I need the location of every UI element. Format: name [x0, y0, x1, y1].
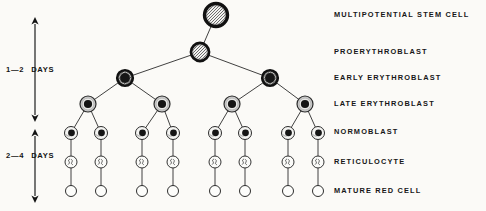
cell-node-reticulocyte: [136, 156, 148, 168]
cell-node-mature-red-cell: [96, 186, 107, 197]
cell-node-reticulocyte: [167, 156, 179, 168]
erythropoiesis-diagram: MULTIPOTENTIAL STEM CELLPROERYTHROBLASTE…: [0, 0, 486, 211]
cell-node-reticulocyte: [239, 156, 251, 168]
cell-node-mature-red-cell: [313, 186, 324, 197]
cell-node-reticulocyte: [282, 156, 294, 168]
stage-label-multipotential-stem-cell: MULTIPOTENTIAL STEM CELL: [334, 11, 469, 18]
cell-node-mature-red-cell: [210, 186, 221, 197]
cell-node-reticulocyte: [209, 156, 221, 168]
cell-node-mature-red-cell: [283, 186, 294, 197]
cell-node-early-erythroblast: [262, 70, 278, 86]
cell-node-normoblast: [209, 127, 222, 140]
cell-node-mature-red-cell: [66, 186, 77, 197]
duration-label-1: 1—2DAYS: [6, 66, 54, 74]
cell-node-late-erythroblast: [80, 96, 96, 112]
cell-node-late-erythroblast: [154, 96, 170, 112]
timeline-arrows: [31, 17, 38, 203]
cell-node-proerythroblast: [191, 43, 209, 61]
cell-node-normoblast: [95, 127, 108, 140]
cell-node-normoblast: [239, 127, 252, 140]
cell-node-late-erythroblast: [297, 96, 313, 112]
stage-label-early-erythroblast: EARLY ERYTHROBLAST: [334, 74, 441, 81]
stage-label-mature-red-cell: MATURE RED CELL: [334, 187, 421, 194]
cell-node-late-erythroblast: [224, 96, 240, 112]
stage-label-reticulocyte: RETICULOCYTE: [334, 158, 405, 165]
cell-node-reticulocyte: [95, 156, 107, 168]
timeline-arrowhead-up: [31, 129, 38, 137]
cell-node-early-erythroblast: [117, 70, 133, 86]
cell-node-reticulocyte: [312, 156, 324, 168]
timeline-arrowhead-up: [31, 17, 38, 25]
timeline-arrowhead-down: [31, 195, 38, 203]
cell-node-normoblast: [312, 127, 325, 140]
cell-node-normoblast: [136, 127, 149, 140]
cell-node-mature-red-cell: [168, 186, 179, 197]
lineage-edges: [71, 15, 318, 191]
duration-value: 2—4: [6, 151, 24, 160]
stage-label-late-erythroblast: LATE ERYTHROBLAST: [334, 100, 435, 107]
cell-node-normoblast: [167, 127, 180, 140]
duration-value: 1—2: [6, 65, 24, 74]
cell-nodes: [65, 4, 325, 197]
cell-node-normoblast: [282, 127, 295, 140]
cell-node-mature-red-cell: [240, 186, 251, 197]
stage-label-normoblast: NORMOBLAST: [334, 128, 398, 135]
timeline-arrowhead-down: [31, 114, 38, 122]
cell-node-multipotential-stem-cell: [205, 4, 228, 27]
lineage-edge: [125, 52, 200, 78]
duration-label-2: 2—4DAYS: [6, 152, 54, 160]
duration-unit: DAYS: [31, 151, 54, 160]
cell-node-reticulocyte: [65, 156, 77, 168]
lineage-edge: [200, 52, 270, 78]
stage-label-proerythroblast: PROERYTHROBLAST: [334, 48, 428, 55]
cell-node-normoblast: [65, 127, 78, 140]
duration-unit: DAYS: [31, 65, 54, 74]
cell-node-mature-red-cell: [137, 186, 148, 197]
